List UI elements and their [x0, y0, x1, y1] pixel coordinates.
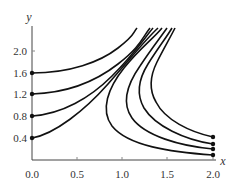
start-point [30, 136, 34, 140]
y-tick-label: 1.6 [13, 67, 27, 79]
curve-right-0-3 [139, 28, 213, 144]
x-tick-label: 1.0 [115, 168, 129, 180]
x-tick-label: 0.5 [70, 168, 84, 180]
end-point [211, 153, 215, 157]
curve-left-1-2 [32, 28, 150, 94]
y-axis-label: y [25, 10, 32, 24]
y-tick-label: 0.4 [13, 132, 27, 144]
x-tick-label: 0.0 [25, 168, 39, 180]
end-point [211, 147, 215, 151]
end-point [211, 142, 215, 146]
chart: 2.0 1.6 1.2 0.8 0.4 0.0 0.5 1.0 1.5 2.0 … [0, 0, 238, 185]
x-tick-label: 2.0 [206, 168, 220, 180]
x-tick-label: 1.5 [160, 168, 174, 180]
y-tick-label: 0.8 [13, 110, 27, 122]
start-point [30, 92, 34, 96]
end-point [211, 135, 215, 139]
y-tick-label: 1.2 [13, 88, 27, 100]
start-point [30, 114, 34, 118]
start-point [30, 71, 34, 75]
x-axis-label: x [219, 154, 226, 168]
y-tick-label: 2.0 [13, 45, 27, 57]
